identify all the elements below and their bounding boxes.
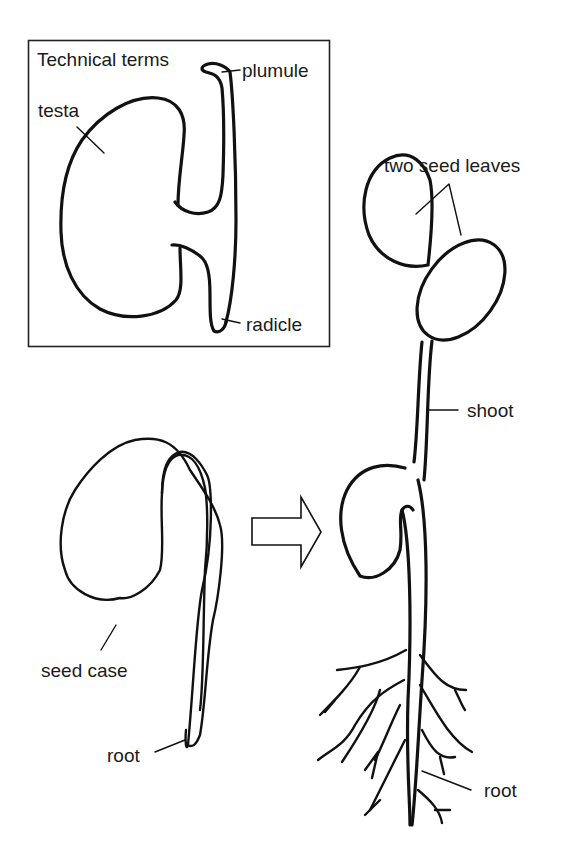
germinating-seed: seed case root [41, 439, 222, 766]
seed-germination-diagram: Technical terms testa plumule radicle se… [0, 0, 572, 849]
seedling: two seed leaves shoot [318, 155, 523, 825]
seed-leaves-leader [416, 184, 461, 235]
seed-leaf-front [399, 224, 523, 357]
seed-case-body [61, 439, 222, 746]
seedling-seed-case [341, 465, 413, 577]
tap-root-left [402, 510, 410, 825]
tap-root-right [412, 480, 426, 825]
label-testa: testa [38, 100, 80, 121]
plumule-leader [222, 70, 240, 72]
seed-case-leader [101, 625, 116, 650]
technical-terms-inset: Technical terms testa plumule radicle [29, 41, 330, 347]
testa-outline [61, 98, 184, 317]
label-two-seed-leaves: two seed leaves [384, 155, 520, 176]
seed-root-leader [155, 740, 185, 752]
shoot-stem [414, 342, 422, 462]
label-seed-root: root [107, 745, 140, 766]
lateral-roots [318, 650, 472, 823]
label-shoot: shoot [467, 400, 514, 421]
label-radicle: radicle [246, 314, 302, 335]
label-seed-case: seed case [41, 660, 128, 681]
root-inner [162, 455, 207, 710]
inset-title: Technical terms [37, 49, 169, 70]
seedling-root-leader [422, 771, 471, 790]
label-seedling-root: root [484, 780, 517, 801]
hilum-upper [175, 63, 236, 322]
label-plumule: plumule [242, 60, 309, 81]
develops-into-arrow-icon [252, 497, 321, 567]
